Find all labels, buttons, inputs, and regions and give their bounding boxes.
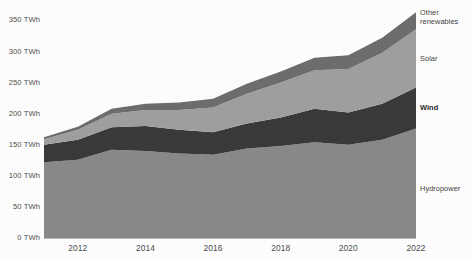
x-tick-label: 2016 <box>204 243 223 253</box>
x-tick-label: 2020 <box>339 243 358 253</box>
series-label-wind: Wind <box>420 104 438 113</box>
y-tick-label: 300 TWh <box>0 47 40 56</box>
x-tick-label: 2014 <box>136 243 155 253</box>
y-tick-label: 50 TWh <box>0 202 40 211</box>
y-tick-label: 200 TWh <box>0 109 40 118</box>
y-tick-label: 150 TWh <box>0 140 40 149</box>
chart-plot-area <box>0 0 472 257</box>
x-tick-label: 2012 <box>68 243 87 253</box>
stacked-area-chart: 350 TWh300 TWh250 TWh200 TWh150 TWh100 T… <box>0 0 472 257</box>
x-tick-label: 2018 <box>271 243 290 253</box>
series-label-other-renewables: Other renewables <box>420 9 458 26</box>
y-tick-label: 0 TWh <box>0 233 40 242</box>
x-axis-line <box>44 238 416 239</box>
y-tick-label: 350 TWh <box>0 15 40 24</box>
y-tick-label: 250 TWh <box>0 78 40 87</box>
x-tick-label: 2022 <box>406 243 425 253</box>
series-label-hydropower: Hydropower <box>420 185 460 194</box>
y-tick-label: 100 TWh <box>0 171 40 180</box>
series-label-solar: Solar <box>420 55 438 64</box>
